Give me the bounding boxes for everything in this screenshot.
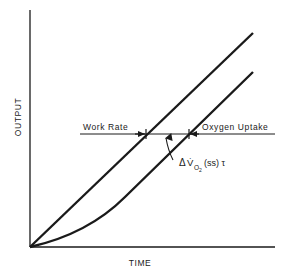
diagram-canvas: Work Rate Oxygen Uptake Δ V̇ O 2 (ss) τ … [0,0,286,278]
ss-tau-text: (ss) τ [204,158,225,168]
x-axis-label: TIME [129,258,152,268]
y-axis-label: OUTPUT [13,98,23,137]
two-subscript: 2 [199,167,202,173]
oxygen-uptake-label: Oxygen Uptake [202,122,268,132]
delta-vo2-label: Δ V̇ O 2 (ss) τ [179,157,225,173]
work-rate-line [30,33,253,247]
delta-symbol: Δ [179,157,186,168]
work-rate-label: Work Rate [83,122,128,132]
vdot-symbol: V̇ [187,157,194,168]
